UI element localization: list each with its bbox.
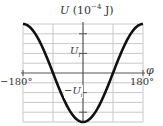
chart-plot [0, 0, 163, 126]
axes [21, 22, 145, 122]
x-axis-label: φ [146, 64, 154, 77]
x-tick-label-min: −180° [0, 76, 32, 87]
y-tick-label-pos: Ui [70, 45, 80, 58]
y-tick-label-neg: −Ui [64, 85, 83, 98]
x-tick-label-max: 180° [130, 76, 154, 87]
